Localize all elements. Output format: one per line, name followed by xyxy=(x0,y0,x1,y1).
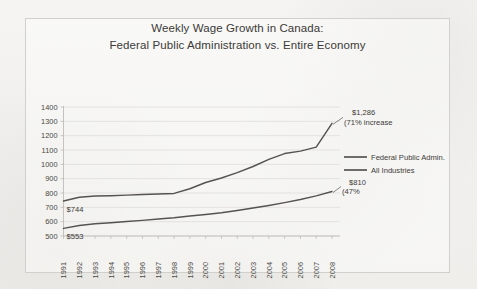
legend-label-federal-public-admin: Federal Public Admin. xyxy=(371,153,445,162)
x-axis-tick-label: 2008 xyxy=(328,262,337,278)
annotation-end-industries-pct: (47% xyxy=(342,187,360,196)
y-axis-tick-label: 1400 xyxy=(41,103,57,112)
annotation-start-federal: $744 xyxy=(67,205,84,214)
annotation-end-federal-pct: (71% increase xyxy=(344,118,393,127)
y-axis-tick-labels: 50060070080090010001100120013001400 xyxy=(41,103,57,241)
leader-line-federal xyxy=(333,117,343,124)
x-axis-tick-label: 1996 xyxy=(138,262,147,278)
x-axis-tick-label: 2007 xyxy=(312,262,321,278)
y-axis-tick-label: 1300 xyxy=(41,117,57,126)
y-axis-tick-label: 1100 xyxy=(42,146,58,155)
x-axis-tick-labels: 1991199219931994199519961997199819992000… xyxy=(59,262,337,278)
leader-line-industries xyxy=(333,187,341,193)
chart-legend: Federal Public Admin.All Industries xyxy=(344,153,445,175)
x-axis-tick-label: 1998 xyxy=(170,262,179,278)
annotation-end-industries-value: $810 xyxy=(349,178,366,187)
y-axis-tick-label: 700 xyxy=(45,203,57,212)
series-line-all-industries xyxy=(64,192,333,229)
y-axis-tick-label: 500 xyxy=(45,232,57,241)
x-axis-tick-label: 1992 xyxy=(75,262,84,278)
x-axis-tick-label: 1997 xyxy=(154,262,163,278)
x-axis-tick-label: 1999 xyxy=(186,262,195,278)
series-line-federal-public-admin xyxy=(64,123,333,201)
y-axis-tick-label: 900 xyxy=(45,174,57,183)
y-axis-tick-label: 1200 xyxy=(41,131,57,140)
y-axis-tick-label: 800 xyxy=(45,189,57,198)
series-lines-group xyxy=(64,123,333,228)
x-axis-tick-label: 1995 xyxy=(122,262,131,278)
y-axis-tick-label: 1000 xyxy=(41,160,57,169)
axes-group xyxy=(61,106,341,239)
legend-label-all-industries: All Industries xyxy=(371,166,415,175)
x-axis-tick-label: 2005 xyxy=(280,262,289,278)
annotation-start-industries: $553 xyxy=(67,232,84,241)
x-axis-tick-label: 2001 xyxy=(217,262,226,278)
wage-growth-line-chart: 50060070080090010001100120013001400 1991… xyxy=(0,0,477,289)
x-axis-tick-label: 2000 xyxy=(201,262,210,278)
x-axis-tick-label: 2006 xyxy=(296,262,305,278)
x-axis-tick-label: 2002 xyxy=(233,262,242,278)
x-axis-tick-label: 1993 xyxy=(91,262,100,278)
x-axis-tick-label: 2004 xyxy=(265,262,274,278)
gridlines-group xyxy=(64,107,341,236)
x-axis-tick-label: 1994 xyxy=(107,262,116,278)
y-axis-tick-label: 600 xyxy=(45,217,57,226)
x-axis-tick-label: 2003 xyxy=(249,262,258,278)
x-axis-tick-label: 1991 xyxy=(59,262,68,278)
annotation-end-federal-value: $1,286 xyxy=(352,108,375,117)
